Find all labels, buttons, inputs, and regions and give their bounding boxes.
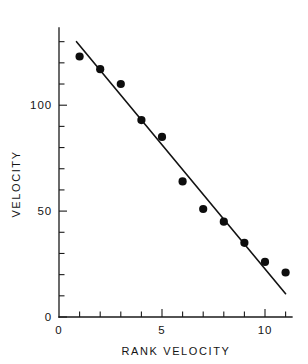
data-point	[76, 52, 84, 60]
x-axis-tick-labels: 0510	[55, 324, 272, 336]
y-axis-tick-label: 50	[37, 205, 52, 217]
fitted-trend-line	[77, 42, 286, 294]
data-point-group	[76, 52, 290, 276]
y-axis-tick-label: 0	[45, 311, 52, 323]
x-axis-ticks	[80, 309, 286, 317]
data-point	[240, 239, 248, 247]
x-axis-title: RANK VELOCITY	[122, 345, 231, 357]
data-point	[282, 268, 290, 276]
data-point	[96, 65, 104, 73]
data-point	[220, 218, 228, 226]
chart-figure: 050100 0510 RANK VELOCITY VELOCITY	[0, 0, 308, 364]
data-point	[137, 116, 145, 124]
y-axis-tick-label: 100	[30, 99, 52, 111]
data-point	[261, 258, 269, 266]
plot-axes	[59, 28, 292, 317]
data-point	[158, 133, 166, 141]
fitted-trend-line-group	[77, 42, 286, 294]
y-axis-tick-labels: 050100	[30, 99, 52, 323]
y-axis-title: VELOCITY	[10, 150, 22, 217]
x-axis-tick-label: 10	[258, 324, 273, 336]
scatter-plot-svg: 050100 0510 RANK VELOCITY VELOCITY	[0, 0, 308, 364]
y-axis-ticks	[59, 42, 67, 317]
data-point	[179, 177, 187, 185]
data-point	[117, 80, 125, 88]
x-axis-tick-label: 0	[55, 324, 62, 336]
x-axis-tick-label: 5	[158, 324, 165, 336]
data-point	[199, 205, 207, 213]
